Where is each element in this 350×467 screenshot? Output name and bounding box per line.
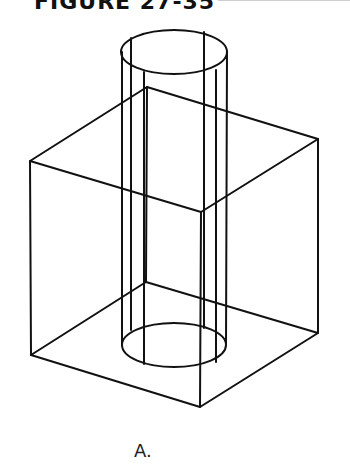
cylinder-bottom-ellipse [122,323,226,367]
cylinder-box-wireframe [0,0,350,467]
box-top-face [30,87,318,212]
cylinder-top-ellipse [121,30,227,74]
box-edge-front [200,212,201,407]
box-bottom-face [31,282,318,407]
figure-caption: A. [134,440,152,461]
cylinder-outline-right [226,52,227,345]
box-edge-back [146,87,147,282]
box-edge-left [30,161,31,355]
